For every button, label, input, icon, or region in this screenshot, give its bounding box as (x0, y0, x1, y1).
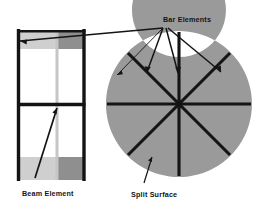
diagram-canvas: Bar Elements Beam Element Split Surface (0, 0, 261, 209)
shade-bottom-right (57, 157, 84, 180)
shade-top-right (57, 31, 84, 49)
diagram-svg: Bar Elements Beam Element Split Surface (0, 0, 261, 209)
spoke-group (107, 32, 251, 176)
circular-model-group (106, 0, 252, 177)
arrowhead-beam-element (52, 108, 57, 115)
frame-model-group (17, 29, 86, 181)
label-split-surface: Split Surface (131, 190, 177, 199)
label-bar-elements: Bar Elements (163, 15, 211, 24)
label-beam-element: Beam Element (22, 189, 74, 198)
shade-bottom-left (17, 157, 57, 180)
